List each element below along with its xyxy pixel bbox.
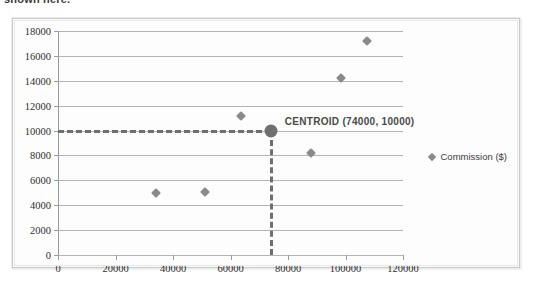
y-axis-tick-label: 0 (46, 250, 51, 261)
plot-area: 0200040006000800010000120001400016000180… (58, 31, 403, 255)
y-axis-tick (54, 155, 59, 156)
y-axis-tick-label: 8000 (30, 150, 51, 161)
cut-off-caption: shown here. (4, 0, 70, 5)
data-point (200, 187, 210, 197)
x-axis-tick (346, 255, 347, 260)
gridline (58, 56, 403, 57)
data-point (151, 188, 161, 198)
gridline (58, 155, 403, 156)
y-axis-tick (54, 81, 59, 82)
y-axis-tick (54, 106, 59, 107)
y-axis-tick (54, 31, 59, 32)
gridline (58, 230, 403, 231)
y-axis-tick-label: 12000 (25, 100, 51, 111)
y-axis-tick (54, 230, 59, 231)
x-axis-tick (58, 255, 59, 260)
gridline (58, 106, 403, 107)
legend-item-label: Commission ($) (440, 151, 507, 162)
x-axis-tick (173, 255, 174, 260)
x-axis-tick-label: 60000 (217, 263, 243, 274)
y-axis-tick-label: 6000 (30, 175, 51, 186)
x-axis-tick (116, 255, 117, 260)
gridline (58, 81, 403, 82)
centroid-horizontal-guide (58, 130, 271, 133)
legend: Commission ($) (429, 151, 507, 162)
chart-frame: 0200040006000800010000120001400016000180… (12, 18, 520, 268)
centroid-label: CENTROID (74000, 10000) (285, 115, 415, 126)
x-axis-tick (288, 255, 289, 260)
centroid-vertical-guide (270, 131, 273, 255)
gridline (58, 205, 403, 206)
y-axis-tick-label: 4000 (30, 200, 51, 211)
y-axis-tick (54, 180, 59, 181)
y-axis-tick-label: 10000 (25, 125, 51, 136)
y-axis-tick-label: 2000 (30, 225, 51, 236)
data-point (236, 111, 246, 121)
x-axis-tick (231, 255, 232, 260)
gridline (58, 180, 403, 181)
x-axis-tick-label: 20000 (102, 263, 128, 274)
y-axis-tick (54, 205, 59, 206)
centroid-marker (264, 124, 277, 137)
y-axis-tick-label: 16000 (25, 50, 51, 61)
y-axis-tick-label: 18000 (25, 26, 51, 37)
y-axis-tick (54, 56, 59, 57)
x-axis-tick-label: 80000 (275, 263, 301, 274)
x-axis-tick (403, 255, 404, 260)
gridline (58, 31, 403, 32)
x-axis-tick-label: 120000 (387, 263, 419, 274)
diamond-marker-icon (428, 152, 436, 160)
y-axis-line (58, 31, 59, 255)
x-axis-tick-label: 100000 (330, 263, 362, 274)
x-axis-tick-label: 40000 (160, 263, 186, 274)
data-point (362, 36, 372, 46)
x-axis-tick-label: 0 (55, 263, 60, 274)
y-axis-tick-label: 14000 (25, 75, 51, 86)
